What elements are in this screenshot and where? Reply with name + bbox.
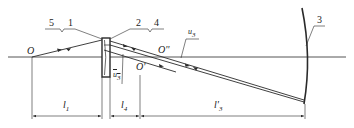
part-label-4: 4 bbox=[154, 18, 159, 28]
ray-arrow-icon bbox=[159, 64, 164, 67]
dim-label-l1: l1 bbox=[63, 100, 69, 113]
ray-lens-to-mirror-lower bbox=[110, 45, 304, 102]
part-label-2: 2 bbox=[136, 18, 141, 28]
ray-arrow-left-icon bbox=[66, 48, 71, 51]
leader-5-1 bbox=[45, 29, 102, 39]
leader-u3-bar bbox=[122, 54, 123, 84]
part-label-3: 3 bbox=[317, 15, 322, 25]
leader-3 bbox=[306, 26, 325, 46]
part-label-1: 1 bbox=[68, 18, 73, 28]
dim-label-l3p: l'3 bbox=[214, 100, 222, 113]
point-label-o: O bbox=[27, 46, 34, 56]
point-label-o-double-prime: O'' bbox=[158, 45, 170, 55]
ray-arrow-icon bbox=[131, 48, 136, 52]
leader-2-4 bbox=[110, 29, 164, 39]
part-label-5: 5 bbox=[49, 18, 54, 28]
ray-arrow-icon bbox=[123, 44, 128, 47]
leader-u3 bbox=[181, 39, 199, 58]
point-label-o-prime: O' bbox=[136, 62, 145, 72]
mirror-element bbox=[302, 8, 308, 104]
dim-label-l4: l4 bbox=[121, 100, 127, 113]
angle-label-u3-bar: u3 bbox=[113, 71, 121, 82]
angle-label-u3: u3 bbox=[188, 28, 196, 39]
